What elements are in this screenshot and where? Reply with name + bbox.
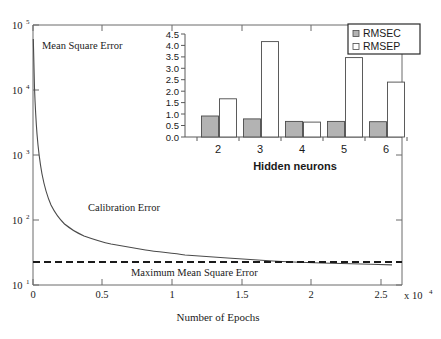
inset-ytick-3-5: 3.5 <box>166 51 179 62</box>
calibration-error-caption: Calibration Error <box>88 202 161 213</box>
inset-ytick-3-0: 3.0 <box>166 63 179 74</box>
main-x-axis-label: Number of Epochs <box>176 311 259 323</box>
y-tick-1e3: 10 <box>12 150 23 161</box>
x-tick-2-5: 2.5 <box>374 289 387 300</box>
inset-ytick-2-5: 2.5 <box>166 74 179 85</box>
legend-swatch-rmsep <box>353 44 359 50</box>
x-axis-multiplier: x 10 4 <box>404 288 433 301</box>
inset-xtick-3: 3 <box>257 143 263 155</box>
inset-bar-chart: 4.5 4.0 3.5 3.0 2.5 2.0 1.5 1.0 0.5 0.0 <box>155 20 423 175</box>
inset-x-axis-label: Hidden neurons <box>253 160 337 172</box>
legend-label-rmsep: RMSEP <box>363 40 400 52</box>
inset-ytick-0-5: 0.5 <box>166 120 179 131</box>
inset-y-tick-labels: 4.5 4.0 3.5 3.0 2.5 2.0 1.5 1.0 0.5 0.0 <box>166 29 179 143</box>
y-tick-1e1: 10 <box>12 280 23 291</box>
inset-xtick-4: 4 <box>299 143 305 155</box>
inset-xtick-2: 2 <box>215 143 221 155</box>
y-tick-1e3-exp: 3 <box>26 148 30 156</box>
legend-label-rmsec: RMSEC <box>363 27 401 39</box>
x-tick-1: 1 <box>169 289 174 300</box>
inset-ytick-4-0: 4.0 <box>166 40 179 51</box>
x-multiplier-exp: 4 <box>429 288 433 296</box>
bar-rmsec-6 <box>370 122 387 137</box>
inset-ytick-0-0: 0.0 <box>166 132 179 143</box>
inset-chart-svg: 4.5 4.0 3.5 3.0 2.5 2.0 1.5 1.0 0.5 0.0 <box>155 20 423 175</box>
y-tick-1e4-exp: 4 <box>26 83 30 91</box>
max-mse-caption: Maximum Mean Square Error <box>131 267 258 278</box>
legend-swatch-rmsec <box>353 31 359 37</box>
bar-rmsep-3 <box>262 42 279 137</box>
inset-ytick-1-0: 1.0 <box>166 109 179 120</box>
bar-rmsec-5 <box>328 121 345 137</box>
x-tick-1-5: 1.5 <box>235 289 248 300</box>
x-multiplier-base: x 10 <box>404 290 422 301</box>
main-y-tick-labels: 10 5 10 4 10 3 10 2 10 1 <box>12 18 30 291</box>
figure-container: 10 5 10 4 10 3 10 2 10 1 <box>0 0 441 339</box>
y-tick-1e2: 10 <box>12 215 23 226</box>
inset-ytick-1-5: 1.5 <box>166 97 179 108</box>
inset-x-ticks <box>197 137 407 141</box>
y-tick-1e1-exp: 1 <box>26 278 30 286</box>
x-tick-0-5: 0.5 <box>95 289 108 300</box>
bar-rmsec-2 <box>202 116 219 137</box>
main-x-tick-labels: 0 0.5 1 1.5 2 2.5 <box>30 289 387 300</box>
y-tick-1e4: 10 <box>12 85 23 96</box>
inset-y-ticks <box>181 34 185 137</box>
inset-xtick-5: 5 <box>341 143 347 155</box>
x-tick-0: 0 <box>30 289 35 300</box>
inset-ytick-4-5: 4.5 <box>166 29 179 40</box>
bar-rmsec-3 <box>244 119 261 137</box>
bar-rmsep-4 <box>304 122 321 137</box>
inset-x-tick-labels: 2 3 4 5 6 <box>215 143 389 155</box>
y-tick-1e5: 10 <box>12 20 23 31</box>
x-tick-2: 2 <box>308 289 313 300</box>
inset-legend: RMSEC RMSEP <box>348 24 420 54</box>
y-tick-1e2-exp: 2 <box>26 213 30 221</box>
inset-ytick-2-0: 2.0 <box>166 86 179 97</box>
mean-square-error-caption: Mean Square Error <box>42 40 123 51</box>
bar-rmsep-5 <box>346 58 363 137</box>
bar-rmsep-2 <box>220 99 237 137</box>
inset-xtick-6: 6 <box>383 143 389 155</box>
bar-rmsep-6 <box>388 82 405 137</box>
bar-rmsec-4 <box>286 121 303 137</box>
y-tick-1e5-exp: 5 <box>26 18 30 26</box>
